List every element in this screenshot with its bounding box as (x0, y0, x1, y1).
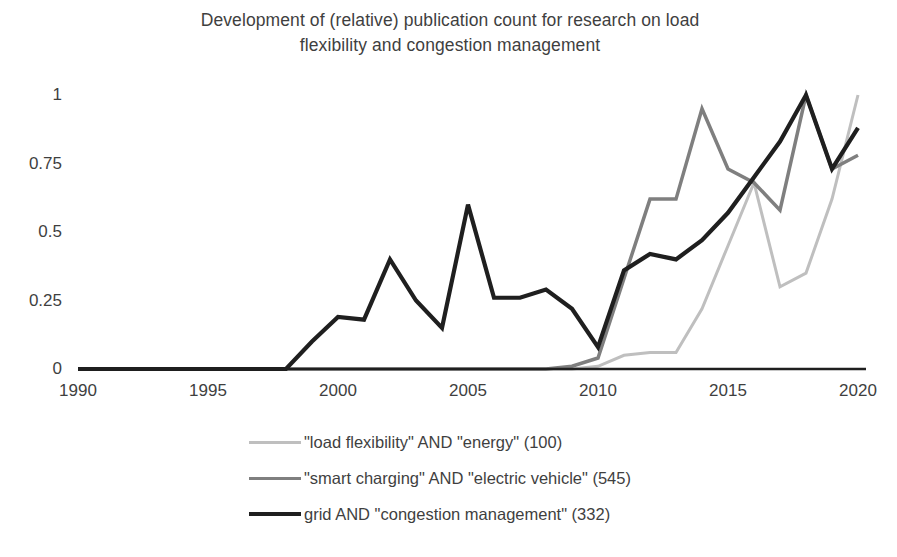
x-axis-tick-label: 2015 (693, 381, 763, 401)
legend-item[interactable]: "load flexibility" AND "energy" (100) (0, 424, 897, 460)
legend-item[interactable]: "smart charging" AND "electric vehicle" … (0, 460, 897, 496)
data-series-line (78, 95, 858, 369)
y-axis-tick-label: 0.25 (10, 291, 62, 311)
plot-area (0, 0, 897, 420)
y-axis-tick-label: 1 (10, 85, 62, 105)
x-axis-tick-label: 2000 (303, 381, 373, 401)
x-axis-tick-label: 1995 (173, 381, 243, 401)
legend-line-swatch-icon (249, 512, 301, 516)
y-axis-tick-label: 0.5 (10, 222, 62, 242)
legend-item[interactable]: grid AND "congestion management" (332) (0, 496, 897, 532)
legend-item-label: grid AND "congestion management" (332) (304, 504, 610, 524)
chart-container: Development of (relative) publication co… (0, 0, 897, 557)
x-axis-tick-label: 2010 (563, 381, 633, 401)
y-axis-tick-label: 0 (10, 359, 62, 379)
data-series-line (78, 95, 858, 369)
x-axis-tick-label: 2005 (433, 381, 503, 401)
legend-item-label: "load flexibility" AND "energy" (100) (304, 432, 562, 452)
data-series-line (78, 95, 858, 369)
chart-legend: "load flexibility" AND "energy" (100) "s… (0, 424, 897, 532)
legend-item-label: "smart charging" AND "electric vehicle" … (304, 468, 631, 488)
legend-line-swatch-icon (249, 441, 301, 444)
x-axis-tick-label: 2020 (823, 381, 893, 401)
series-layer (78, 95, 858, 369)
legend-line-swatch-icon (249, 477, 301, 480)
x-axis-tick-label: 1990 (43, 381, 113, 401)
y-axis-tick-label: 0.75 (10, 154, 62, 174)
